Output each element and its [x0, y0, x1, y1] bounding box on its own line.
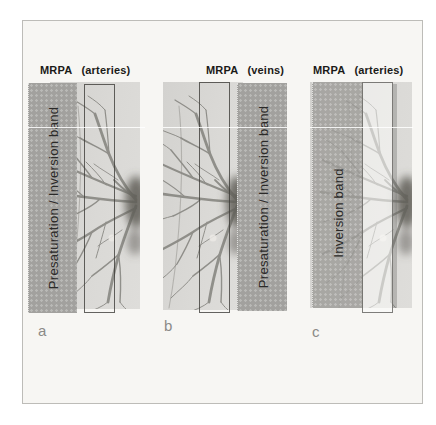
panel-b-header: MRPA (veins) [206, 64, 284, 76]
panel-a-subtitle: (arteries) [81, 64, 130, 76]
panel-c-header: MRPA (arteries) [313, 64, 403, 76]
panel-c-inversion-band: Inversion band [312, 82, 363, 308]
panel-a-letter: a [38, 322, 46, 339]
panel-a-title: MRPA [40, 64, 72, 76]
panel-a-header: MRPA (arteries) [40, 64, 130, 76]
panel-c-slab-outline [362, 82, 393, 313]
panel-c-subtitle: (arteries) [354, 64, 403, 76]
panel-c-letter: c [312, 323, 320, 340]
panel-b-scratch-line [163, 127, 287, 128]
panel-b-title: MRPA [206, 64, 238, 76]
panel-a-scratch-line [28, 127, 145, 128]
panel-b-band-label: Presaturation / Inversion band [255, 106, 270, 288]
panel-c-slab-shadow [393, 84, 397, 308]
panel-c-scratch-line [310, 127, 413, 128]
panel-b-presaturation-band: Presaturation / Inversion band [237, 83, 287, 311]
panel-b-subtitle: (veins) [247, 64, 284, 76]
panel-a-slab-outline [84, 84, 115, 313]
panel-c-title: MRPA [313, 64, 345, 76]
panel-a-presaturation-band: Presaturation / Inversion band [28, 83, 77, 313]
panel-c-band-label: Inversion band [331, 168, 346, 257]
panel-a-band-label: Presaturation / Inversion band [46, 107, 61, 289]
panel-b-slab-outline [199, 82, 230, 313]
panel-b-letter: b [164, 317, 172, 334]
